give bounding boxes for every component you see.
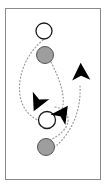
figure-canvas <box>0 0 110 187</box>
filled-circle-bottom <box>38 139 55 156</box>
figure-panel <box>0 0 110 187</box>
open-circle-top <box>36 23 52 39</box>
filled-circle-upper <box>37 47 54 64</box>
